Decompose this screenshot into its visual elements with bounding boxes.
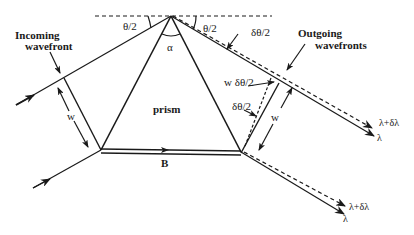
lambda-top-label: λ bbox=[377, 132, 382, 143]
outgoing-label-1: Outgoing bbox=[298, 27, 343, 39]
incoming-label-2: wavefront bbox=[25, 40, 73, 52]
w-right-dimension-top bbox=[281, 88, 292, 108]
w-delta-theta-label: w δθ/2 bbox=[224, 76, 254, 88]
theta-half-right-label: θ/2 bbox=[203, 22, 217, 34]
delta-theta-top-label: δθ/2 bbox=[251, 26, 270, 38]
delta-theta-top-pointer bbox=[227, 34, 238, 49]
alpha-label: α bbox=[167, 41, 173, 53]
prism-diagram: Incoming wavefront Outgoing wavefronts θ… bbox=[0, 0, 414, 235]
incoming-wavefront-pointer bbox=[50, 52, 60, 73]
alpha-arc bbox=[162, 34, 180, 36]
w-left-label: w bbox=[67, 110, 75, 122]
theta-right-arc bbox=[193, 16, 196, 29]
prism-base-top bbox=[101, 149, 241, 151]
theta-half-left-label: θ/2 bbox=[123, 20, 137, 32]
w-left-dimension-bottom bbox=[74, 121, 88, 147]
w-right-label: w bbox=[271, 111, 279, 123]
outgoing-ray-lower-lambda-plus bbox=[244, 152, 345, 206]
incoming-ray-lower-arrow bbox=[33, 179, 50, 188]
base-label: B bbox=[161, 157, 169, 169]
lambda-plus-top-label: λ+δλ bbox=[379, 117, 399, 128]
lambda-bottom-label: λ bbox=[343, 213, 348, 224]
w-right-dimension-bottom bbox=[259, 124, 273, 150]
outgoing-label-2: wavefronts bbox=[315, 39, 367, 51]
delta-theta-mid-label: δθ/2 bbox=[232, 100, 251, 112]
outgoing-ray-lower-lambda bbox=[241, 152, 344, 214]
incoming-ray-upper-arrow bbox=[16, 95, 34, 105]
w-left-dimension-top bbox=[58, 88, 69, 111]
theta-left-arc bbox=[148, 16, 151, 28]
prism-base-bottom bbox=[101, 153, 241, 155]
prism-label: prism bbox=[153, 103, 181, 115]
lambda-plus-bottom-label: λ+δλ bbox=[349, 201, 369, 212]
outgoing-wavefronts-pointer bbox=[287, 44, 305, 70]
